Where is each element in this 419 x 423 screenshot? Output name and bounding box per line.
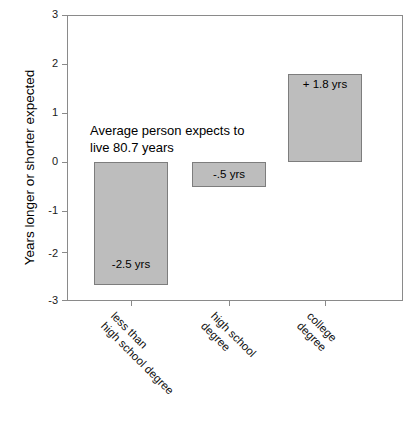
chart-screenshot: Years longer or shorter expected 3 2 1 0… [0,0,419,423]
y-tick-label-3: 3 [28,9,58,20]
y-tick-mark-minus1 [62,211,67,212]
x-tick-mark-high-school-degree [229,301,230,306]
x-tick-mark-less-than-high-school [131,301,132,306]
y-tick-label-minus1: -1 [28,205,58,216]
y-tick-mark-minus2 [62,252,67,253]
bar-value-label-college-degree: + 1.8 yrs [288,78,362,90]
y-tick-mark-0 [62,162,67,163]
x-category-label-high-school-degree: high school degree [198,309,259,370]
y-tick-mark-2 [62,64,67,65]
bar-value-label-less-than-high-school: -2.5 yrs [94,258,168,270]
y-tick-mark-3 [62,15,67,16]
x-tick-mark-college-degree [325,301,326,306]
y-tick-mark-1 [62,113,67,114]
y-tick-label-minus2: -2 [28,248,58,259]
y-tick-mark-minus3 [62,300,67,301]
average-expectancy-annotation: Average person expects to live 80.7 year… [90,122,244,156]
y-tick-label-minus3: -3 [28,295,58,306]
y-tick-label-1: 1 [28,107,58,118]
y-tick-label-0: 0 [28,156,58,167]
y-axis-title: Years longer or shorter expected [22,33,37,303]
y-tick-label-2: 2 [28,58,58,69]
x-category-label-less-than-high-school: less than high school degree [98,309,187,398]
bar-value-label-high-school-degree: -.5 yrs [192,168,266,180]
x-category-label-college-degree: college degree [294,309,340,355]
